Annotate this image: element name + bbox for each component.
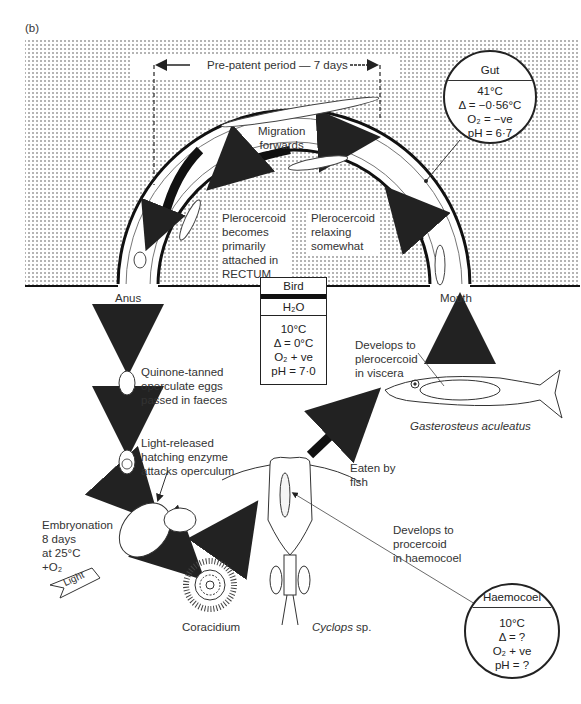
hatching-label: Light-releasedhatching enzymeattacks ope… (141, 436, 234, 478)
plerocercoid-relaxing-label: Plerocercoidrelaxingsomewhat (307, 210, 379, 254)
panel-label: (b) (25, 21, 39, 35)
embryonated-egg-icon (119, 450, 135, 474)
coracidium-icon (186, 561, 234, 609)
coracidium-label: Coracidium (182, 620, 240, 634)
fish-species-label: Gasterosteus aculeatus (410, 419, 531, 433)
embryonation-label: Embryonation8 daysat 25°C+O₂ (42, 518, 113, 574)
pre-patent-label: Pre-patent period — 7 days (207, 58, 348, 72)
gut-conditions-circle: Gut 41°CΔ = −0·56°CO₂ = −vepH = 6·7 (443, 50, 537, 144)
migration-label: Migrationforwards (258, 124, 305, 152)
cyclops-icon (222, 457, 360, 625)
eggs-label: Quinone-tannedoperculate eggspassed in f… (141, 365, 227, 407)
egg-icon (119, 371, 135, 395)
mouth-label: Mouth (440, 291, 472, 305)
plerocercoid-rectum-label: Plerocercoidbecomesprimarilyattached inR… (218, 210, 290, 282)
develops-procercoid-label: Develops toprocercoidin haemocoel (393, 523, 461, 565)
bird-water-box: Bird H₂O 10°CΔ = 0°CO₂ + vepH = 7·0 (260, 277, 327, 385)
haemocoel-conditions-circle: Haemocoel 10°CΔ = ?O₂ + vepH = ? (464, 583, 560, 679)
develops-plerocercoid-label: Develops toplerocercoidin viscera (355, 338, 418, 380)
cyclops-label: Cyclops sp. (312, 620, 371, 634)
eaten-by-fish-label: Eaten byfish (350, 461, 395, 489)
anus-label: Anus (115, 291, 141, 305)
